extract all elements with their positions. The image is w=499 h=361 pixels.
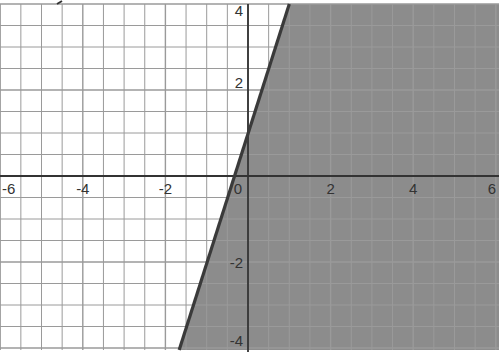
y-tick-label: 4 xyxy=(235,2,243,19)
y-tick-label: -4 xyxy=(230,332,243,349)
x-tick-label: 4 xyxy=(409,180,417,197)
x-tick-label: -6 xyxy=(2,180,15,197)
x-tick-label: -4 xyxy=(76,180,89,197)
y-tick-label: -2 xyxy=(230,254,243,271)
x-tick-label: 6 xyxy=(488,180,496,197)
x-tick-label: -2 xyxy=(159,180,172,197)
y-tick-label: 2 xyxy=(235,74,243,91)
inequality-graph: -6-4-20246-4-224 xyxy=(0,0,499,361)
x-tick-label: 2 xyxy=(326,180,334,197)
x-tick-label: 0 xyxy=(234,180,242,197)
